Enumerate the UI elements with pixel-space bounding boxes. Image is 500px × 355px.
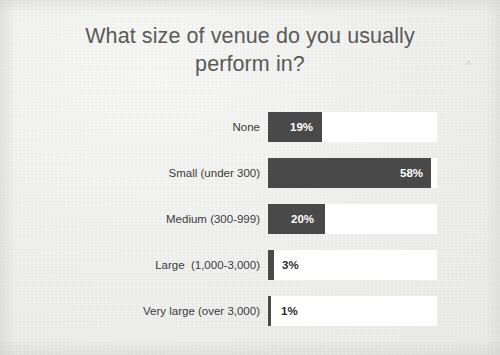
bar-value-label: 3% xyxy=(282,250,299,280)
bar-category-label: Medium (300-999) xyxy=(95,204,260,234)
bar-track: 19% xyxy=(268,112,437,142)
bar-category-label: Small (under 300) xyxy=(95,158,260,188)
bar-chart-plot-area: None 19% Small (under 300) 58% Medium (3… xyxy=(0,0,500,355)
bar-category-label: Large (1,000-3,000) xyxy=(95,250,260,280)
bar-row: Small (under 300) 58% xyxy=(95,158,440,188)
bar-value-label: 20% xyxy=(291,204,314,234)
bar-track: 3% xyxy=(268,250,437,280)
bar-row: Large (1,000-3,000) 3% xyxy=(95,250,440,280)
bar-value-label: 58% xyxy=(400,158,423,188)
scanned-page: ^ What size of venue do you usually perf… xyxy=(0,0,500,355)
bar-fill xyxy=(268,250,274,280)
bar-value-label: 19% xyxy=(290,112,313,142)
bar-category-label: Very large (over 3,000) xyxy=(95,296,260,326)
bar-fill xyxy=(268,296,271,326)
bar-row: None 19% xyxy=(95,112,440,142)
bar-track: 58% xyxy=(268,158,437,188)
bar-row: Medium (300-999) 20% xyxy=(95,204,440,234)
bar-track: 20% xyxy=(268,204,437,234)
bar-row: Very large (over 3,000) 1% xyxy=(95,296,440,326)
bar-value-label: 1% xyxy=(281,296,298,326)
bar-track: 1% xyxy=(268,296,437,326)
bar-category-label: None xyxy=(95,112,260,142)
